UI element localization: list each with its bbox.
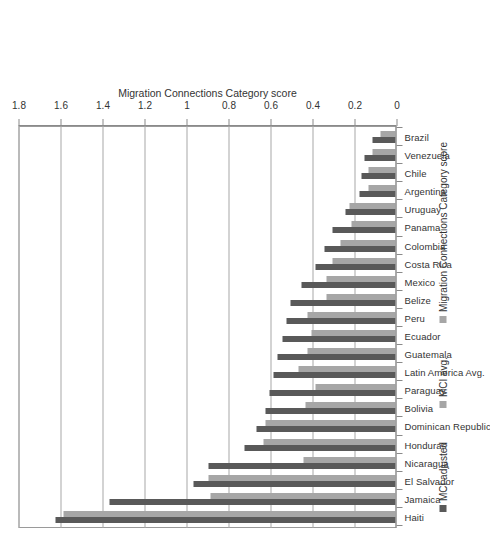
bar: [269, 390, 395, 396]
bar: [345, 209, 395, 215]
bar: [324, 246, 395, 252]
plot-area: [18, 126, 396, 528]
value-tick-label-text: 0.8: [221, 100, 235, 111]
bar: [298, 366, 395, 372]
bar: [315, 384, 395, 390]
value-tick-label-text: 1.2: [137, 100, 151, 111]
legend-item[interactable]: Migration Connections Category score: [437, 142, 448, 323]
bar: [326, 276, 395, 282]
bar-group: [18, 164, 395, 182]
category-tick: [396, 163, 402, 164]
category-tick: [396, 489, 402, 490]
bar: [372, 137, 395, 143]
category-tick: [396, 453, 402, 454]
value-tick: [102, 119, 103, 126]
bar-group: [18, 490, 395, 508]
bar: [340, 240, 395, 246]
value-tick: [18, 119, 19, 126]
bar-group: [18, 472, 395, 490]
category-tick: [396, 344, 402, 345]
bar: [210, 493, 395, 499]
bar-group: [18, 291, 395, 309]
bar-group: [18, 128, 395, 146]
value-tick: [354, 119, 355, 126]
bar: [364, 155, 396, 161]
category-tick: [396, 217, 402, 218]
category-tick: [396, 471, 402, 472]
bar: [368, 167, 395, 173]
category-tick: [396, 145, 402, 146]
bar: [286, 318, 395, 324]
category-tick: [396, 525, 402, 526]
legend-item[interactable]: MCI adjusted: [437, 442, 448, 512]
category-tick: [396, 326, 402, 327]
legend-item-label: Migration Connections Category score: [437, 142, 448, 312]
bar: [55, 517, 395, 523]
bar-group: [18, 309, 395, 327]
category-tick: [396, 272, 402, 273]
bar: [109, 499, 395, 505]
bar: [307, 312, 395, 318]
bar: [244, 445, 395, 451]
bar: [307, 348, 395, 354]
legend-item-label: MCI avg.: [437, 357, 448, 397]
value-tick-label-text: 0: [393, 100, 399, 111]
category-tick: [396, 362, 402, 363]
bar: [372, 149, 395, 155]
bar: [368, 185, 395, 191]
category-tick: [396, 308, 402, 309]
value-tick: [186, 119, 187, 126]
legend-item-label: MCI adjusted: [437, 442, 448, 501]
bar-group: [18, 273, 395, 291]
value-tick: [312, 119, 313, 126]
bar-group: [18, 255, 395, 273]
legend-swatch-icon: [439, 401, 446, 408]
bar: [359, 191, 395, 197]
bar: [301, 282, 396, 288]
category-tick: [396, 181, 402, 182]
value-tick-label-text: 0.4: [305, 100, 319, 111]
bar: [305, 402, 395, 408]
category-tick: [396, 507, 402, 508]
bar-group: [18, 237, 395, 255]
bar: [256, 426, 395, 432]
category-label-text: Haiti: [404, 511, 424, 522]
bar: [263, 439, 395, 445]
category-tick: [396, 199, 402, 200]
bar: [265, 420, 395, 426]
bar-group: [18, 363, 395, 381]
category-tick: [396, 254, 402, 255]
bar: [380, 131, 395, 137]
category-label-text: Belize: [404, 294, 430, 305]
bar-group: [18, 454, 395, 472]
bar: [351, 221, 395, 227]
category-tick: [396, 435, 402, 436]
bar-group: [18, 327, 395, 345]
bar: [361, 173, 395, 179]
value-axis-title-text: Migration Connections Category score: [118, 87, 297, 99]
bar-series-container: [18, 126, 395, 528]
bar-group: [18, 218, 395, 236]
value-tick: [60, 119, 61, 126]
bar-group: [18, 146, 395, 164]
value-tick: [144, 119, 145, 126]
category-tick: [396, 398, 402, 399]
bar-group: [18, 417, 395, 435]
value-tick-label-text: 1.8: [11, 100, 25, 111]
bar: [63, 511, 395, 517]
bar-group: [18, 182, 395, 200]
value-tick-marks: [18, 119, 396, 126]
category-tick: [396, 380, 402, 381]
category-label-text: Chile: [404, 168, 426, 179]
category-label-text: Mexico: [404, 276, 435, 287]
value-tick-label-text: 1.6: [53, 100, 67, 111]
bar: [282, 336, 395, 342]
bar-group: [18, 381, 395, 399]
bar-group: [18, 399, 395, 417]
bar-group: [18, 508, 395, 526]
value-tick: [396, 119, 397, 126]
category-tick: [396, 416, 402, 417]
legend-item[interactable]: MCI avg.: [437, 357, 448, 408]
